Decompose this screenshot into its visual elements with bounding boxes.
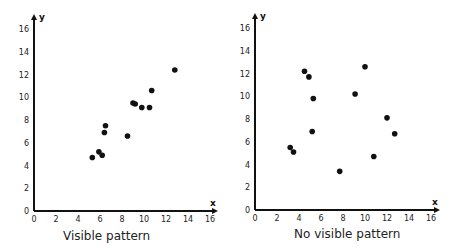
- y-axis-arrow-icon: [252, 13, 258, 19]
- x-tick-label: 12: [382, 214, 392, 223]
- data-point: [311, 96, 317, 102]
- data-point: [371, 154, 377, 160]
- data-point: [309, 129, 315, 135]
- data-point: [392, 131, 398, 137]
- y-tick-label: 8: [245, 115, 250, 124]
- x-tick-label: 16: [426, 214, 436, 223]
- x-tick-label: 10: [360, 214, 370, 223]
- scatter-chart-no-visible-pattern: xy02468101214160246810121416 No visible …: [0, 0, 459, 249]
- data-point: [302, 68, 308, 74]
- scatter-plot-area: xy02468101214160246810121416: [0, 0, 459, 249]
- data-point: [384, 115, 390, 121]
- y-axis-label: y: [260, 11, 266, 21]
- y-tick-label: 14: [240, 47, 250, 56]
- chart-caption: No visible pattern: [294, 227, 400, 241]
- data-point: [362, 64, 368, 70]
- x-tick-label: 0: [252, 214, 257, 223]
- data-point: [287, 145, 293, 151]
- data-point: [352, 91, 358, 97]
- y-tick-label: 6: [245, 138, 250, 147]
- data-point: [306, 74, 312, 80]
- y-tick-label: 16: [240, 24, 250, 33]
- x-tick-label: 6: [318, 214, 323, 223]
- x-tick-label: 14: [404, 214, 414, 223]
- x-axis-label: x: [432, 197, 438, 207]
- data-point: [291, 149, 297, 155]
- y-tick-label: 12: [240, 70, 250, 79]
- y-tick-label: 4: [245, 161, 250, 170]
- x-tick-label: 2: [274, 214, 279, 223]
- y-tick-label: 10: [240, 92, 250, 101]
- x-axis-arrow-icon: [434, 207, 440, 213]
- x-tick-label: 8: [340, 214, 345, 223]
- data-point: [337, 169, 343, 175]
- y-tick-label: 2: [245, 183, 250, 192]
- y-tick-label: 0: [245, 206, 250, 215]
- x-tick-label: 4: [296, 214, 301, 223]
